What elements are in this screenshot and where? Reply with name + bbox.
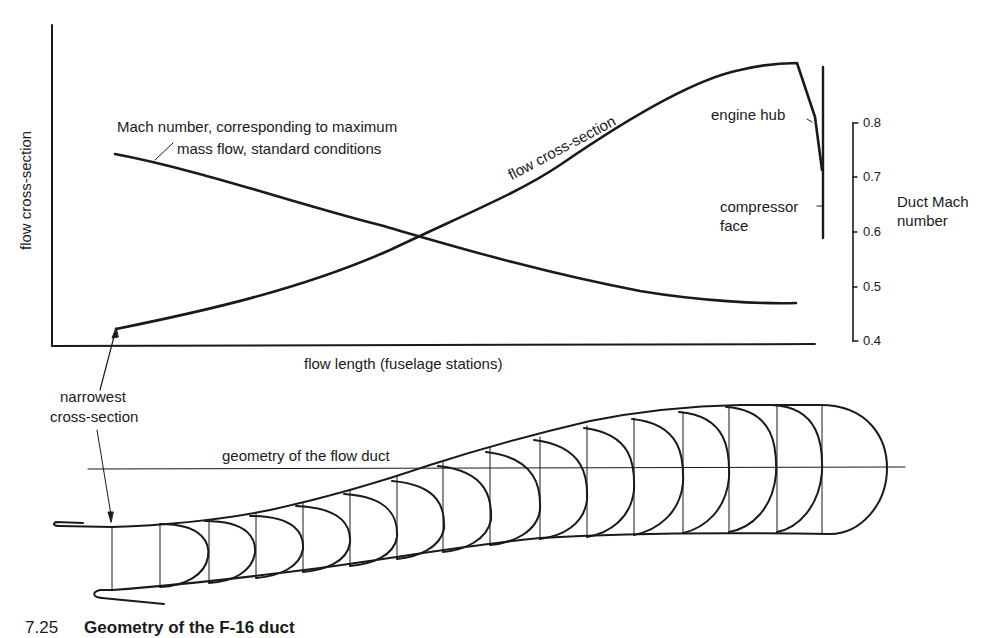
caption-number: 7.25: [25, 618, 58, 637]
narrowest-leader-head: [108, 512, 113, 522]
inlet-upper-lip: [54, 522, 112, 527]
y-axis-label: flow cross-section: [17, 131, 34, 250]
x-axis-label: flow length (fuselage stations): [304, 355, 502, 373]
duct-mach-axis-label-line1: Duct Mach: [897, 193, 969, 211]
compressor-face-label-line2: face: [720, 217, 748, 235]
caption-title: Geometry of the F-16 duct: [84, 618, 295, 637]
narrowest-label-line1: narrowest: [60, 388, 126, 406]
geometry-label: geometry of the flow duct: [222, 447, 390, 465]
duct-centerline: [88, 467, 905, 469]
mach-tick-label-04: 0.4: [863, 333, 881, 348]
mach-number-curve: [115, 154, 796, 303]
narrowest-label-line2: cross-section: [50, 408, 138, 426]
duct-upper-wall: [112, 405, 820, 527]
engine-hub-leader: [807, 119, 812, 122]
duct-end-arc: [820, 405, 887, 534]
figure-caption: 7.25Geometry of the F-16 duct: [25, 618, 295, 638]
mach-tick-label-05: 0.5: [863, 279, 881, 294]
engine-hub-label: engine hub: [711, 106, 785, 124]
mach-tick-label-07: 0.7: [863, 169, 881, 184]
narrowest-leader: [97, 430, 111, 515]
flow-cross-section-curve: [116, 63, 822, 329]
inlet-lower-lip: [94, 590, 164, 604]
x-axis-line: [52, 344, 815, 346]
mach-curve-label-line2: mass flow, standard conditions: [177, 140, 381, 158]
duct-mach-axis-label-line2: number: [897, 212, 948, 230]
mach-tick-label-08: 0.8: [863, 115, 881, 130]
station-lines: [112, 405, 822, 590]
mach-label-leader: [155, 143, 173, 160]
mach-tick-label-06: 0.6: [863, 224, 881, 239]
compressor-face-label-line1: compressor: [720, 198, 798, 216]
cross-section-arcs: [160, 405, 822, 587]
mach-curve-label-line1: Mach number, corresponding to maximum: [117, 118, 397, 136]
